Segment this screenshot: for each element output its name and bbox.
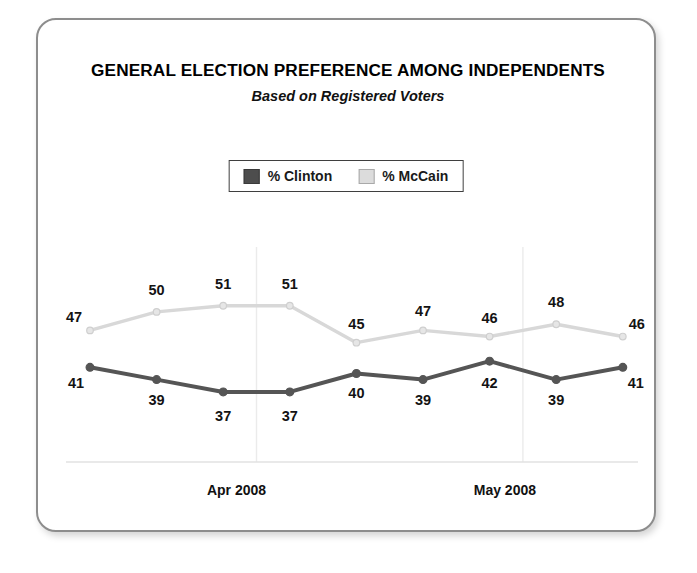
data-label-clinton-0: 41 xyxy=(68,375,84,391)
chart-screenshot: GENERAL ELECTION PREFERENCE AMONG INDEPE… xyxy=(0,0,697,573)
data-label-mccain-4: 45 xyxy=(348,316,364,332)
data-label-clinton-2: 37 xyxy=(215,408,231,424)
data-label-mccain-7: 48 xyxy=(548,294,564,310)
plot-label-overlay: 475051514547464846413937374039423941Apr … xyxy=(38,20,658,534)
data-label-mccain-8: 46 xyxy=(629,316,645,332)
data-label-clinton-8: 41 xyxy=(628,375,644,391)
data-label-mccain-5: 47 xyxy=(415,303,431,319)
x-axis-label-1: May 2008 xyxy=(474,482,536,498)
data-label-clinton-7: 39 xyxy=(548,392,564,408)
data-label-mccain-6: 46 xyxy=(482,310,498,326)
data-label-clinton-5: 39 xyxy=(415,392,431,408)
data-label-clinton-1: 39 xyxy=(149,392,165,408)
data-label-clinton-4: 40 xyxy=(348,385,364,401)
chart-card: GENERAL ELECTION PREFERENCE AMONG INDEPE… xyxy=(36,18,656,532)
data-label-mccain-1: 50 xyxy=(149,282,165,298)
data-label-clinton-3: 37 xyxy=(282,408,298,424)
x-axis-label-0: Apr 2008 xyxy=(207,482,266,498)
data-label-mccain-3: 51 xyxy=(282,276,298,292)
data-label-mccain-2: 51 xyxy=(215,276,231,292)
data-label-mccain-0: 47 xyxy=(66,309,82,325)
data-label-clinton-6: 42 xyxy=(482,375,498,391)
